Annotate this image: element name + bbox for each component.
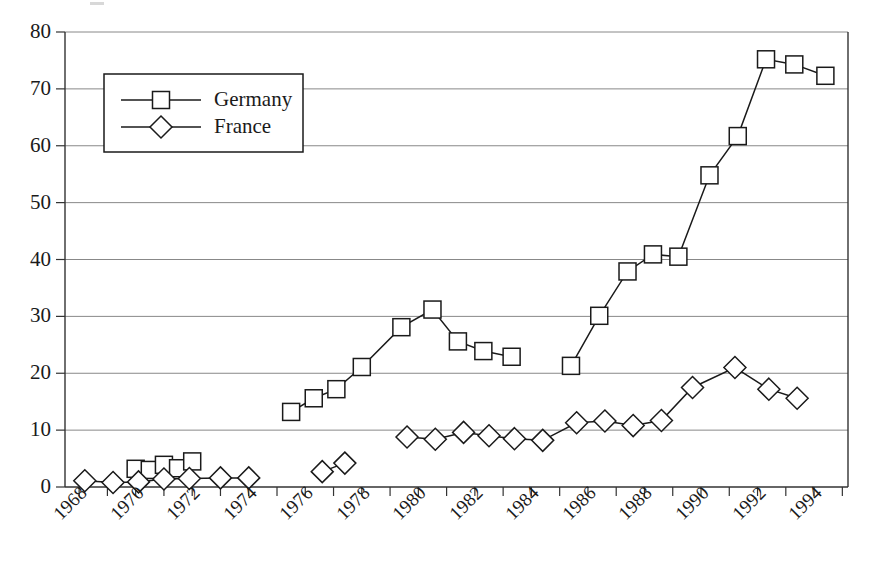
y-axis-tick-label: 40 [7, 249, 51, 270]
legend-label-germany: Germany [214, 87, 292, 112]
y-axis-tick-label: 20 [7, 362, 51, 383]
marker-square [729, 128, 746, 145]
marker-diamond [424, 428, 446, 450]
y-axis-tick-label: 70 [7, 78, 51, 99]
marker-square [619, 263, 636, 280]
marker-diamond [209, 467, 231, 489]
marker-square [562, 357, 579, 374]
marker-square [503, 348, 520, 365]
marker-square [475, 343, 492, 360]
y-axis-tick-label: 50 [7, 192, 51, 213]
marker-diamond [758, 378, 780, 400]
series-france [74, 357, 808, 494]
marker-square [283, 403, 300, 420]
marker-diamond [396, 426, 418, 448]
marker-square [701, 167, 718, 184]
y-axis-tick-label: 0 [7, 476, 51, 497]
marker-square [184, 453, 201, 470]
legend-label-france: France [214, 114, 271, 139]
marker-square [393, 319, 410, 336]
marker-square [353, 358, 370, 375]
marker-square [758, 51, 775, 68]
marker-square [424, 301, 441, 318]
marker-diamond [724, 357, 746, 379]
marker-diamond [102, 471, 124, 493]
marker-diamond [532, 429, 554, 451]
y-axis-tick-label: 80 [7, 21, 51, 42]
marker-square [449, 333, 466, 350]
legend-box [104, 74, 303, 152]
marker-square [786, 56, 803, 73]
marker-square [591, 307, 608, 324]
marker-square [305, 390, 322, 407]
marker-diamond [503, 428, 525, 450]
marker-diamond [478, 425, 500, 447]
marker-diamond [453, 421, 475, 443]
chart-container: 01020304050607080 1968197019721974197619… [0, 0, 875, 573]
marker-square [153, 92, 170, 109]
series-line [571, 59, 825, 366]
y-axis-tick-label: 30 [7, 305, 51, 326]
marker-square [670, 248, 687, 265]
y-axis-tick-label: 10 [7, 419, 51, 440]
marker-square [817, 67, 834, 84]
marker-diamond [622, 415, 644, 437]
y-axis-tick-label: 60 [7, 135, 51, 156]
marker-diamond [311, 461, 333, 483]
marker-diamond [786, 387, 808, 409]
marker-diamond [594, 410, 616, 432]
marker-square [644, 246, 661, 263]
marker-square [328, 381, 345, 398]
marker-diamond [334, 452, 356, 474]
